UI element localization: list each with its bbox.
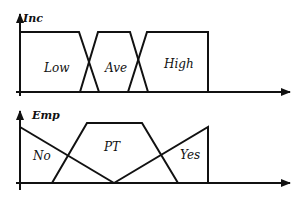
- label-no: No: [32, 149, 51, 163]
- panel-inc: Inc Low Ave High: [16, 12, 290, 96]
- label-ave: Ave: [104, 61, 127, 75]
- label-low: Low: [43, 61, 70, 75]
- panel-emp: Emp No PT Yes: [16, 109, 290, 190]
- label-yes: Yes: [180, 148, 200, 162]
- fuzzy-membership-diagram: Inc Low Ave High Emp No PT Yes: [0, 0, 298, 202]
- inc-axis-label: Inc: [22, 12, 43, 25]
- label-pt: PT: [103, 140, 121, 154]
- label-high: High: [163, 57, 194, 71]
- emp-axis-label: Emp: [31, 109, 60, 122]
